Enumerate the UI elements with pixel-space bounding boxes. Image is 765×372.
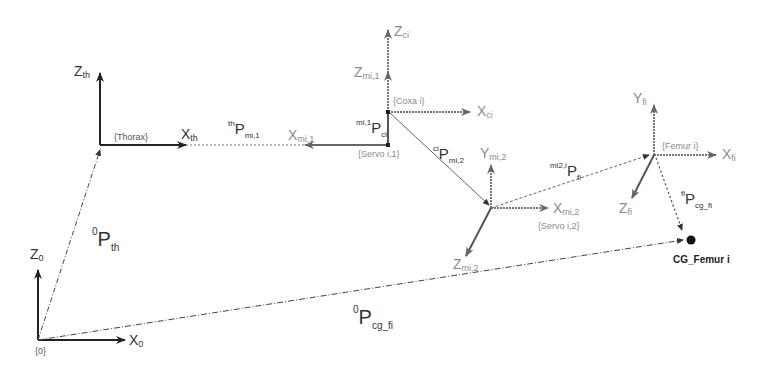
x0-axis-label: X0 bbox=[129, 333, 143, 349]
zmi2-axis-label: Zmi,2 bbox=[453, 257, 479, 273]
xmi1-axis-label: Xmi,1 bbox=[288, 128, 314, 144]
servo2-frame-label: {Servo i,2} bbox=[538, 222, 580, 231]
femur-frame bbox=[632, 105, 716, 198]
world-frame-label: {0} bbox=[35, 347, 46, 356]
cg-femur-point bbox=[687, 236, 696, 245]
vector-th-p-mi1-label: thPmi,1 bbox=[228, 120, 260, 140]
xci-axis-label: Xci bbox=[477, 104, 493, 120]
ymi2-axis-label: Ymi,2 bbox=[480, 146, 506, 162]
zmi2-axis-arrow bbox=[466, 208, 491, 256]
xth-axis-label: Xth bbox=[181, 127, 198, 143]
femur-frame-label: {Femur i} bbox=[662, 142, 699, 151]
vector-mi1-p-ci-label: mi,1Pci bbox=[356, 119, 387, 139]
xmi2-axis-label: Xmi,2 bbox=[553, 201, 579, 217]
xfi-axis-label: Xfi bbox=[722, 147, 736, 163]
servo2-frame bbox=[466, 165, 548, 256]
vector-0p-th-label: 0Pth bbox=[92, 227, 119, 253]
servo1-frame-label: {Servo i,1} bbox=[358, 150, 400, 159]
zfi-axis-label: Zfi bbox=[619, 201, 632, 217]
z0-axis-label: Z0 bbox=[30, 247, 44, 263]
vector-fi-p-cg-label: fiPcg_fi bbox=[681, 190, 712, 210]
yfi-axis-label: Yfi bbox=[633, 91, 647, 107]
thorax-frame-label: {Thorax} bbox=[114, 133, 148, 142]
vector-fi-p-cg bbox=[656, 158, 682, 230]
zci-axis-label: Zci bbox=[394, 24, 409, 40]
vector-mi2-p-fi-label: mi2,iPfi bbox=[550, 162, 581, 182]
zth-axis-label: Zth bbox=[74, 64, 90, 80]
world-frame bbox=[38, 270, 125, 340]
zfi-axis-arrow bbox=[632, 155, 654, 198]
cg-femur-label: CG_Femur i bbox=[673, 255, 730, 265]
zmi1-axis-label: Zmi,1 bbox=[354, 65, 380, 81]
vector-0p-th bbox=[38, 150, 100, 340]
vector-0p-cg-label: 0Pcg_fi bbox=[353, 305, 393, 331]
kinematic-diagram: Z0 X0 {0} Zth Xth {Thorax} 0Pth thPmi,1 … bbox=[0, 0, 765, 372]
coxa-frame-label: {Coxa i} bbox=[393, 97, 425, 106]
vector-ci-p-mi2-label: ciPmi,2 bbox=[433, 145, 464, 165]
